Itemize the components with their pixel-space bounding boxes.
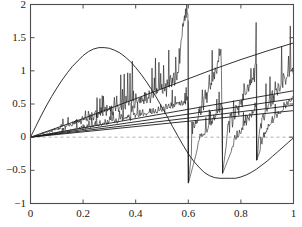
x-axis-tick-label: 0 <box>16 208 46 219</box>
x-axis-tick-label: 0.2 <box>68 208 98 219</box>
x-axis-tick-label: 0.8 <box>226 208 256 219</box>
plot-background <box>31 5 294 204</box>
y-axis-tick-label: −0.5 <box>0 164 26 175</box>
x-axis-tick-label: 1 <box>279 208 302 219</box>
y-axis-tick-label: 0 <box>0 131 26 142</box>
x-axis-tick-label: 0.4 <box>121 208 151 219</box>
y-axis-tick-label: 1.5 <box>0 32 26 43</box>
y-axis-tick-label: 1 <box>0 65 26 76</box>
chart-figure: −1−0.500.511.5200.20.40.60.81 <box>0 0 301 227</box>
y-axis-tick-label: 2 <box>0 0 26 10</box>
x-axis-tick-label: 0.6 <box>173 208 203 219</box>
plot-canvas <box>0 0 301 227</box>
y-axis-tick-label: 0.5 <box>0 98 26 109</box>
